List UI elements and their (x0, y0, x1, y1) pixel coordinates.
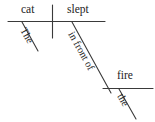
verb-label: slept (67, 4, 89, 16)
object-label: fire (117, 70, 133, 82)
subject-label: cat (21, 4, 34, 16)
diagram-lines-canvas (0, 0, 155, 122)
sentence-diagram: cat slept The in front of fire the (0, 0, 155, 122)
